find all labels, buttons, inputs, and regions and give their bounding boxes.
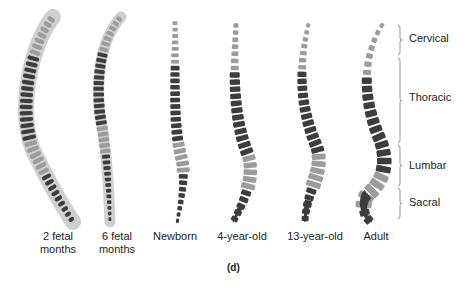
stage-label-4-year-old: 4-year-old — [212, 230, 272, 243]
bracket-sacral — [398, 188, 402, 219]
bracket-lumbar — [398, 145, 402, 186]
region-label-lumbar: Lumbar — [409, 159, 446, 171]
spine-adult — [355, 22, 391, 225]
stage-label-13-year-old: 13-year-old — [283, 230, 347, 243]
bracket-thoracic — [398, 58, 402, 143]
region-label-sacral: Sacral — [409, 196, 440, 208]
spine-newborn — [170, 21, 190, 223]
stage-label-newborn: Newborn — [150, 230, 200, 243]
stage-label-6-fetal-months: 6 fetal months — [97, 230, 137, 256]
spine-6-fetal-months — [93, 16, 122, 222]
region-label-thoracic: Thoracic — [409, 91, 451, 103]
spine-13-year-old — [297, 23, 326, 222]
region-label-cervical: Cervical — [409, 32, 449, 44]
spine-2-fetal-months — [19, 15, 74, 222]
spine-4-year-old — [230, 23, 257, 223]
stage-label-2-fetal-months: 2 fetal months — [38, 230, 78, 256]
bracket-cervical — [398, 25, 402, 55]
spine-development-figure: 2 fetal months 6 fetal months Newborn 4-… — [0, 0, 469, 291]
panel-label: (d) — [227, 262, 240, 273]
stage-label-adult: Adult — [356, 230, 396, 243]
